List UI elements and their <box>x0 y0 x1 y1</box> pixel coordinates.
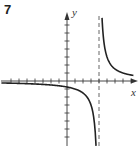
y-axis <box>65 12 70 146</box>
curve-right-branch <box>102 18 133 76</box>
x-axis-arrow-icon <box>131 79 138 84</box>
y-axis-arrow-icon <box>65 12 70 20</box>
curve-left-branch <box>1 83 96 146</box>
x-axis-label: x <box>130 86 136 98</box>
graph: x y <box>0 0 139 146</box>
y-axis-label: y <box>71 6 77 18</box>
